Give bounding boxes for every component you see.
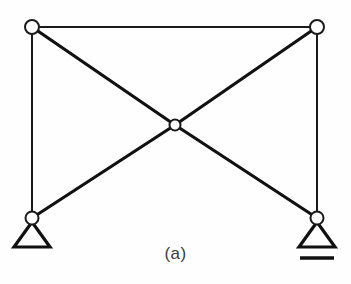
member-diagonal-topright-to-center <box>175 27 317 125</box>
joint-bottom-left <box>26 212 39 225</box>
member-diagonal-topleft-to-center <box>32 27 175 125</box>
figure-caption: (a) <box>0 244 351 264</box>
joint-top-left <box>25 20 39 34</box>
joint-bottom-right <box>311 212 324 225</box>
member-diagonal-bottomleft-to-center <box>32 125 175 218</box>
truss-diagram-canvas <box>0 0 351 284</box>
truss-figure: (a) <box>0 0 351 284</box>
member-diagonal-bottomright-to-center <box>175 125 317 218</box>
joint-center <box>170 120 181 131</box>
joint-top-right <box>310 20 324 34</box>
